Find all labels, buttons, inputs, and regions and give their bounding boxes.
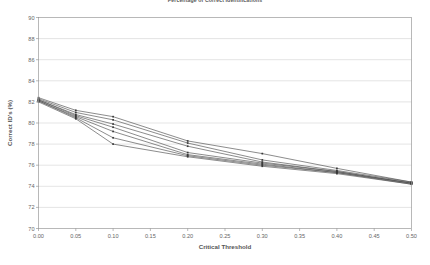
y-tick-label: 90 xyxy=(28,15,34,21)
y-axis-ticks: 7072747678808284868890 xyxy=(28,15,38,232)
y-tick-label: 84 xyxy=(28,78,34,84)
x-tick-label: 0.15 xyxy=(145,233,156,239)
series-line-3 xyxy=(39,100,412,183)
y-tick-label: 72 xyxy=(28,204,34,210)
data-point-marker xyxy=(187,152,189,154)
data-point-marker xyxy=(75,112,77,114)
data-point-marker xyxy=(112,137,114,139)
x-tick-label: 0.40 xyxy=(331,233,342,239)
data-point-marker xyxy=(261,153,263,155)
y-axis-title: Correct ID's (%) xyxy=(6,100,13,146)
x-tick-label: 0.05 xyxy=(70,233,81,239)
data-series-group xyxy=(38,97,413,185)
gridlines xyxy=(39,39,412,208)
data-point-marker xyxy=(75,118,77,120)
data-point-marker xyxy=(112,119,114,121)
x-tick-label: 0.50 xyxy=(406,233,417,239)
data-point-marker xyxy=(112,116,114,118)
x-tick-label: 0.25 xyxy=(220,233,231,239)
line-chart-plot: 0.000.050.100.150.200.250.300.350.400.45… xyxy=(0,0,430,265)
y-tick-label: 88 xyxy=(28,36,34,42)
y-tick-label: 78 xyxy=(28,141,34,147)
data-point-marker xyxy=(336,168,338,170)
y-tick-label: 82 xyxy=(28,99,34,105)
x-tick-label: 0.30 xyxy=(257,233,268,239)
x-axis-title: Critical Threshold xyxy=(199,243,252,250)
data-point-marker xyxy=(187,156,189,158)
data-point-marker xyxy=(261,159,263,161)
y-tick-label: 70 xyxy=(28,226,34,232)
data-point-marker xyxy=(112,143,114,145)
y-tick-label: 80 xyxy=(28,120,34,126)
data-point-marker xyxy=(187,145,189,147)
data-point-marker xyxy=(75,109,77,111)
data-point-marker xyxy=(187,140,189,142)
data-point-marker xyxy=(336,173,338,175)
x-tick-label: 0.20 xyxy=(182,233,193,239)
x-tick-label: 0.10 xyxy=(108,233,119,239)
y-tick-label: 76 xyxy=(28,162,34,168)
y-tick-label: 86 xyxy=(28,57,34,63)
x-tick-label: 0.35 xyxy=(294,233,305,239)
x-tick-label: 0.00 xyxy=(33,233,44,239)
x-axis-ticks: 0.000.050.100.150.200.250.300.350.400.45… xyxy=(33,229,417,240)
chart-container: Percentage of Correct Identifications 0.… xyxy=(0,0,430,265)
data-point-marker xyxy=(112,131,114,133)
data-point-marker xyxy=(112,126,114,128)
data-point-marker xyxy=(261,165,263,167)
series-line-4 xyxy=(39,100,412,183)
series-line-1 xyxy=(39,98,412,182)
x-tick-label: 0.45 xyxy=(369,233,380,239)
y-tick-label: 74 xyxy=(28,183,34,189)
data-point-marker xyxy=(112,123,114,125)
series-line-2 xyxy=(39,99,412,182)
data-point-marker xyxy=(187,142,189,144)
